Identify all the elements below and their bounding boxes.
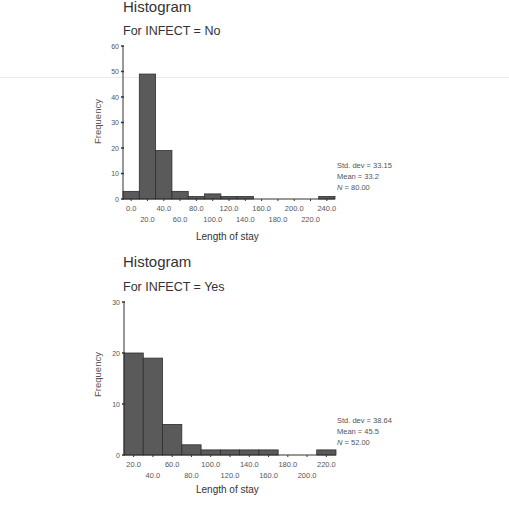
svg-text:220.0: 220.0: [317, 460, 336, 469]
svg-text:30: 30: [112, 299, 120, 306]
svg-text:0: 0: [116, 452, 120, 459]
histogram-bar: [163, 424, 182, 455]
histogram-bar: [317, 450, 336, 455]
svg-text:20.0: 20.0: [126, 460, 141, 469]
histogram-bar: [201, 450, 220, 455]
svg-text:140.0: 140.0: [240, 460, 259, 469]
chart2-xlabel: Length of stay: [196, 484, 259, 495]
histogram-bar: [143, 358, 162, 455]
chart2-mean: Mean = 45.5: [337, 426, 392, 437]
histogram-bar: [220, 450, 239, 455]
svg-text:80.0: 80.0: [184, 471, 199, 480]
svg-text:20: 20: [112, 350, 120, 357]
svg-text:160.0: 160.0: [259, 471, 278, 480]
svg-text:180.0: 180.0: [278, 460, 297, 469]
chart2-std-dev: Std. dev = 38.64: [337, 415, 392, 426]
chart2-plot: 010203020.040.060.080.0100.0120.0140.016…: [0, 0, 509, 506]
histogram-bar: [259, 450, 278, 455]
histogram-bar: [182, 445, 201, 455]
svg-text:100.0: 100.0: [201, 460, 220, 469]
chart2-stats: Std. dev = 38.64 Mean = 45.5 N = 52.00: [337, 415, 392, 448]
svg-text:40.0: 40.0: [146, 471, 161, 480]
histogram-bar: [240, 450, 259, 455]
histogram-bar: [124, 353, 143, 455]
svg-text:60.0: 60.0: [165, 460, 180, 469]
svg-text:200.0: 200.0: [298, 471, 317, 480]
svg-text:10: 10: [112, 401, 120, 408]
chart2-n: N = 52.00: [337, 437, 392, 448]
svg-text:120.0: 120.0: [221, 471, 240, 480]
